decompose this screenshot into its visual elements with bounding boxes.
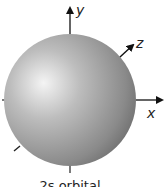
z-axis-label: z xyxy=(135,35,144,51)
z-axis xyxy=(120,45,133,57)
x-axis-label: x xyxy=(146,105,156,121)
z-axis-negative-segment xyxy=(14,146,20,151)
orbital-sphere xyxy=(4,34,136,166)
y-axis-label: y xyxy=(75,2,85,18)
orbital-diagram: y z x xyxy=(0,0,166,187)
diagram-caption: 2s orbital xyxy=(0,178,140,187)
